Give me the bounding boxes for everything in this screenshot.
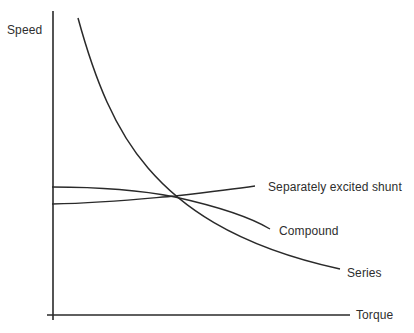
- shunt-label: Separately excited shunt: [268, 180, 402, 194]
- shunt-curve: [52, 186, 255, 204]
- series-label: Series: [347, 266, 382, 280]
- y-axis-label: Speed: [7, 23, 42, 37]
- x-axis-label: Torque: [356, 308, 393, 322]
- compound-curve: [52, 187, 270, 229]
- compound-label: Compound: [279, 224, 339, 238]
- speed-torque-diagram: [0, 0, 414, 333]
